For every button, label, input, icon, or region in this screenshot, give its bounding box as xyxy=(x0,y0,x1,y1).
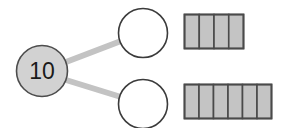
bottom-bar-model[interactable] xyxy=(185,85,272,119)
bar-cell[interactable] xyxy=(214,15,229,49)
top-bar-model-cells xyxy=(185,15,244,49)
bottom-bar-model-cells xyxy=(185,85,272,119)
part-circle-bottom[interactable] xyxy=(119,80,168,129)
bar-cell[interactable] xyxy=(229,15,244,49)
bar-cell[interactable] xyxy=(228,85,243,119)
whole-value-label: 10 xyxy=(29,58,55,84)
whole-node[interactable]: 10 xyxy=(17,46,68,97)
bar-cell[interactable] xyxy=(199,15,214,49)
bar-cell[interactable] xyxy=(243,85,258,119)
number-bond-svg: 10 xyxy=(0,0,290,128)
connector-line-to-top-part xyxy=(66,41,121,62)
bar-cell[interactable] xyxy=(199,85,214,119)
bar-cell[interactable] xyxy=(185,85,200,119)
bar-cell[interactable] xyxy=(185,15,200,49)
connector-line-to-bottom-part xyxy=(66,80,121,97)
bar-cell[interactable] xyxy=(214,85,229,119)
number-bond-diagram-canvas: 10 xyxy=(0,0,290,128)
part-node-bottom[interactable] xyxy=(119,80,168,129)
part-circle-top[interactable] xyxy=(119,9,168,58)
top-bar-model[interactable] xyxy=(185,15,244,49)
connector-group xyxy=(66,41,121,97)
part-node-top[interactable] xyxy=(119,9,168,58)
bar-cell[interactable] xyxy=(257,85,272,119)
